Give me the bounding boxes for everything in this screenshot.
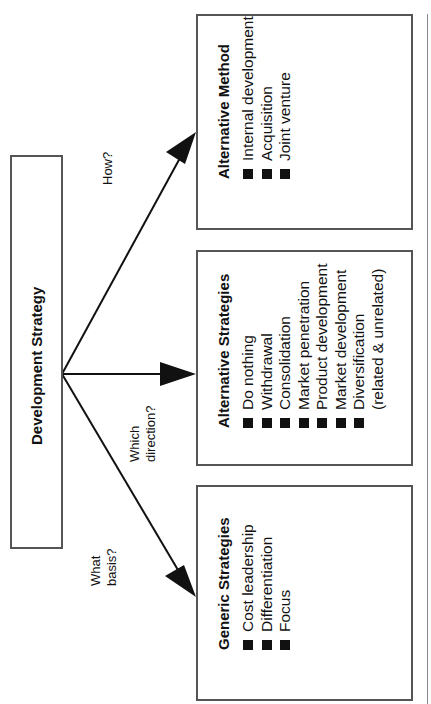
bullet-icon — [243, 169, 253, 179]
alternative-strategies-title: Alternative Strategies — [215, 264, 232, 428]
arrow-how — [62, 132, 196, 374]
bullet-icon — [262, 169, 272, 179]
list-item-continuation: (related & unrelated) — [369, 264, 388, 428]
generic-strategies-content: Generic Strategies Cost leadership Diffe… — [215, 517, 295, 650]
list-item: Diversification — [350, 264, 369, 428]
alternative-method-title: Alternative Method — [215, 16, 232, 179]
list-item: Product development — [313, 264, 332, 428]
bullet-icon — [299, 418, 309, 428]
bullet-icon — [354, 418, 364, 428]
list-item: Internal development — [239, 16, 258, 179]
bullet-icon — [280, 640, 290, 650]
list-item: Joint venture — [276, 16, 295, 179]
list-item: Consolidation — [276, 264, 295, 428]
list-item: Market development — [332, 264, 351, 428]
alternative-strategies-box: Alternative Strategies Do nothing Withdr… — [196, 250, 413, 466]
bullet-icon — [280, 418, 290, 428]
bullet-icon — [317, 418, 327, 428]
question-how: How? — [100, 152, 116, 185]
generic-strategies-box: Generic Strategies Cost leadership Diffe… — [196, 485, 413, 701]
bullet-icon — [243, 640, 253, 650]
list-item: Differentiation — [258, 517, 277, 650]
question-which-line1: Which — [127, 406, 143, 462]
alternative-strategies-content: Alternative Strategies Do nothing Withdr… — [215, 264, 387, 428]
arrow-which-direction — [62, 362, 196, 386]
alternative-method-box: Alternative Method Internal development … — [196, 14, 413, 230]
question-what-line2: basis? — [104, 548, 120, 586]
bullet-icon — [262, 640, 272, 650]
question-what-basis: What basis? — [88, 548, 120, 586]
list-item: Cost leadership — [239, 517, 258, 650]
question-what-line1: What — [88, 548, 104, 586]
list-item: Withdrawal — [258, 264, 277, 428]
question-which-line2: direction? — [143, 406, 159, 462]
list-item: Acquisition — [258, 16, 277, 179]
list-item: Focus — [276, 517, 295, 650]
development-strategy-box: Development Strategy — [10, 155, 63, 549]
bullet-icon — [243, 418, 253, 428]
generic-strategies-title: Generic Strategies — [215, 517, 232, 650]
alternative-method-content: Alternative Method Internal development … — [215, 16, 295, 179]
bullet-icon — [336, 418, 346, 428]
bullet-icon — [280, 169, 290, 179]
question-which-direction: Which direction? — [127, 406, 159, 462]
list-item: Do nothing — [239, 264, 258, 428]
list-item: Market penetration — [295, 264, 314, 428]
page-edge-divider — [427, 14, 428, 704]
development-strategy-title: Development Strategy — [28, 287, 45, 445]
bullet-icon — [262, 418, 272, 428]
